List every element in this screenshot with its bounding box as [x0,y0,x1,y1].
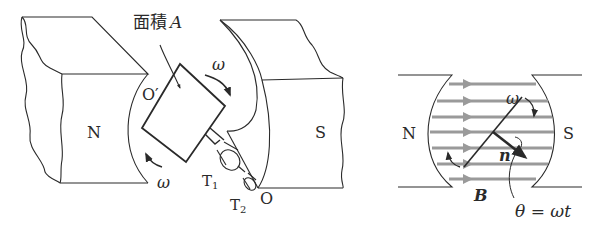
right-figure [398,75,582,198]
area-label: 面積 [133,12,167,32]
diagram-canvas: 面積 A O′ N S ω ω T1 T2 O [0,0,600,231]
ac-generator-diagram: 面積 A O′ N S ω ω T1 T2 O [0,0,600,231]
terminal-2-label: T2 [230,196,246,215]
pole-north-label: N [87,123,101,142]
axis-label-bottom: O [260,189,273,208]
right-pole-south-label: S [563,124,574,143]
normal-vector-label: n [499,146,511,165]
right-pole-north-label: N [402,124,416,143]
field-arrowheads [463,79,473,184]
field-vector-label: B [473,186,488,205]
omega-label-top: ω [212,55,225,74]
terminal-1-label: T1 [202,172,218,191]
coil-loop [142,64,225,162]
omega-label-bottom: ω [157,173,170,192]
rotation-arrow-bottom [146,154,162,167]
angle-formula-label: θ = ωt [515,201,571,221]
right-omega-label: ω [506,89,519,108]
angle-arc [515,137,522,147]
angle-pointer [509,147,520,198]
south-magnet [220,20,344,188]
axis-label-top: O′ [142,85,159,104]
pole-south-label: S [315,123,326,142]
north-magnet [21,17,148,183]
magnetic-field-lines [430,84,554,179]
area-symbol: A [168,12,182,32]
left-figure [21,17,344,193]
